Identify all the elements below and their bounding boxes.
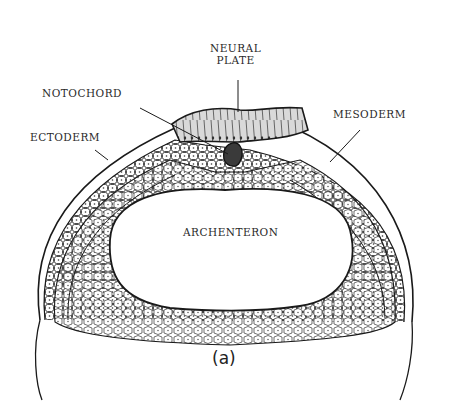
neural-plate	[172, 108, 308, 142]
ectoderm-leader	[95, 150, 108, 160]
embryo-cross-section-figure: NEURAL PLATE NOTOCHORD ECTODERM MESODERM…	[0, 0, 459, 404]
ectoderm-label: ECTODERM	[30, 131, 100, 143]
mesoderm-label: MESODERM	[333, 108, 406, 120]
neural-plate-label-line1: NEURAL	[210, 42, 261, 54]
mesoderm-leader	[330, 130, 360, 162]
neural-plate-label: NEURAL PLATE	[210, 42, 261, 66]
archenteron-cavity	[110, 189, 353, 311]
notochord	[224, 143, 242, 166]
neural-plate-label-line2: PLATE	[210, 54, 261, 66]
archenteron-label: ARCHENTERON	[183, 226, 278, 238]
notochord-label: NOTOCHORD	[42, 87, 122, 99]
figure-caption: (a)	[212, 348, 236, 368]
